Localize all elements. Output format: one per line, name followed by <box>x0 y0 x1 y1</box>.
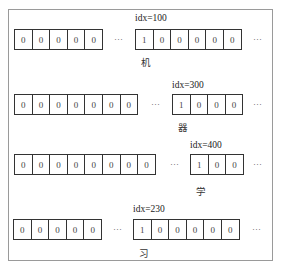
vector-cell: 0 <box>32 94 51 115</box>
vector-cell-hot: 1 <box>190 154 209 175</box>
vector-cell-hot: 1 <box>172 94 191 115</box>
ellipsis: ··· <box>253 34 262 44</box>
vector-cell: 0 <box>203 219 222 240</box>
ellipsis: ··· <box>151 99 160 109</box>
vector-cell-hot: 1 <box>133 219 152 240</box>
vector-cell: 0 <box>102 94 121 115</box>
row-4-right-cells: 1 0 0 0 0 0 <box>133 219 240 240</box>
row-3-left-cells: 0 0 0 0 0 0 0 0 <box>14 154 156 175</box>
vector-cell: 0 <box>31 219 50 240</box>
vector-cell: 0 <box>223 29 242 50</box>
vector-cell: 0 <box>32 29 51 50</box>
vector-cell: 0 <box>49 94 68 115</box>
vector-cell: 0 <box>188 29 207 50</box>
character-label: 机 <box>141 55 151 69</box>
vector-cell: 0 <box>67 154 86 175</box>
ellipsis: ··· <box>114 34 123 44</box>
character-label: 器 <box>178 120 188 134</box>
character-label: 学 <box>196 184 206 198</box>
vector-cell: 0 <box>153 29 172 50</box>
idx-label: idx=100 <box>135 13 167 23</box>
vector-cell: 0 <box>190 94 209 115</box>
idx-label: idx=300 <box>172 80 204 90</box>
ellipsis: ··· <box>253 99 262 109</box>
ellipsis: ··· <box>170 159 179 169</box>
vector-cell: 0 <box>151 219 170 240</box>
vector-cell: 0 <box>84 154 103 175</box>
idx-label: idx=230 <box>133 204 165 214</box>
ellipsis: ··· <box>252 224 261 234</box>
vector-cell: 0 <box>205 29 224 50</box>
vector-cell: 0 <box>120 154 139 175</box>
row-2-left-cells: 0 0 0 0 0 0 0 <box>14 94 138 115</box>
vector-cell: 0 <box>225 154 244 175</box>
vector-cell: 0 <box>225 94 244 115</box>
vector-cell: 0 <box>66 219 85 240</box>
vector-cell-hot: 1 <box>135 29 154 50</box>
idx-label: idx=400 <box>190 140 222 150</box>
vector-cell: 0 <box>102 154 121 175</box>
vector-cell: 0 <box>13 219 32 240</box>
vector-cell: 0 <box>168 219 187 240</box>
vector-cell: 0 <box>83 219 102 240</box>
vector-cell: 0 <box>208 154 227 175</box>
vector-cell: 0 <box>137 154 156 175</box>
vector-cell: 0 <box>67 29 86 50</box>
vector-cell: 0 <box>14 154 33 175</box>
vector-cell: 0 <box>207 94 226 115</box>
vector-cell: 0 <box>120 94 139 115</box>
vector-cell: 0 <box>67 94 86 115</box>
vector-cell: 0 <box>170 29 189 50</box>
vector-cell: 0 <box>186 219 205 240</box>
vector-cell: 0 <box>32 154 51 175</box>
vector-cell: 0 <box>84 94 103 115</box>
ellipsis: ··· <box>113 224 122 234</box>
vector-cell: 0 <box>48 219 67 240</box>
row-3-right-cells: 1 0 0 <box>190 154 244 175</box>
row-4-left-cells: 0 0 0 0 0 <box>13 219 102 240</box>
row-1-left-cells: 0 0 0 0 0 <box>14 29 103 50</box>
row-1-right-cells: 1 0 0 0 0 0 <box>135 29 242 50</box>
vector-cell: 0 <box>14 94 33 115</box>
ellipsis: ··· <box>253 159 262 169</box>
vector-cell: 0 <box>221 219 240 240</box>
vector-cell: 0 <box>14 29 33 50</box>
character-label: 习 <box>139 246 149 260</box>
vector-cell: 0 <box>49 29 68 50</box>
vector-cell: 0 <box>84 29 103 50</box>
row-2-right-cells: 1 0 0 0 <box>172 94 243 115</box>
vector-cell: 0 <box>49 154 68 175</box>
